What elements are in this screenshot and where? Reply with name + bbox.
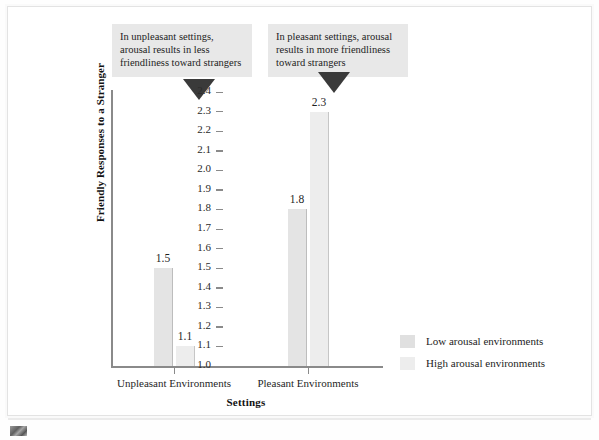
y-axis-title: Friendly Responses to a Stranger xyxy=(94,63,106,222)
bar-value-label: 1.5 xyxy=(146,252,181,264)
x-axis-title: Settings xyxy=(112,396,380,408)
callout-pointer-triangle-icon xyxy=(318,72,350,93)
y-axis-tick-label: 1.2 xyxy=(197,319,211,331)
y-axis-tick-mark xyxy=(216,170,223,171)
bar-low-pleasant[interactable] xyxy=(288,209,307,366)
y-axis-tick-mark xyxy=(216,287,223,288)
annotation-callout-unpleasant: In unpleasant settings, arousal results … xyxy=(112,24,252,77)
y-axis-tick-mark xyxy=(216,366,223,367)
y-axis-tick-label: 1.4 xyxy=(197,280,211,292)
y-axis-tick-label: 1.8 xyxy=(197,201,211,213)
y-axis-tick-label: 2.4 xyxy=(197,84,211,96)
legend-item-low[interactable]: Low arousal environments xyxy=(400,330,580,352)
legend-swatch-icon xyxy=(400,335,415,348)
y-axis-tick-mark xyxy=(216,92,223,93)
y-axis-tick-mark xyxy=(216,189,223,190)
bar-high-unpleasant[interactable] xyxy=(176,346,195,366)
legend-swatch-icon xyxy=(400,357,415,370)
y-axis-tick-mark xyxy=(216,268,223,269)
x-axis-tick-mark xyxy=(174,367,175,374)
y-axis-tick-mark xyxy=(216,229,223,230)
y-axis-tick-label: 1.5 xyxy=(197,260,211,272)
y-axis-tick-mark xyxy=(216,248,223,249)
bar-chart: In unpleasant settings, arousal results … xyxy=(0,0,599,440)
plot-area: Friendly Responses to a Stranger 2.42.32… xyxy=(112,92,380,366)
y-axis-tick-label: 1.6 xyxy=(197,241,211,253)
y-axis-tick-mark xyxy=(216,326,223,327)
bar-value-label: 1.1 xyxy=(168,330,203,342)
legend-item-label: Low arousal environments xyxy=(426,335,543,347)
legend-item-label: High arousal environments xyxy=(426,357,545,369)
bar-low-unpleasant[interactable] xyxy=(154,268,173,366)
y-axis-tick-label: 2.3 xyxy=(197,104,211,116)
y-axis-tick-label: 1.9 xyxy=(197,182,211,194)
y-axis-tick-label: 2.1 xyxy=(197,143,211,155)
y-axis-tick-mark xyxy=(216,307,223,308)
y-axis-tick-label: 1.3 xyxy=(197,299,211,311)
y-axis-tick-mark xyxy=(216,209,223,210)
chart-legend: Low arousal environmentsHigh arousal env… xyxy=(400,330,580,374)
page-frame: In unpleasant settings, arousal results … xyxy=(0,0,599,440)
y-axis-tick-mark xyxy=(216,111,223,112)
y-axis-tick-label: 2.0 xyxy=(197,162,211,174)
y-axis-tick-mark xyxy=(216,150,223,151)
legend-item-high[interactable]: High arousal environments xyxy=(400,352,580,374)
bar-value-label: 2.3 xyxy=(302,96,337,108)
y-axis-tick-label: 1.7 xyxy=(197,221,211,233)
y-axis-tick-label: 1.0 xyxy=(197,358,211,370)
y-axis-tick-mark xyxy=(216,346,223,347)
x-axis-tick-mark xyxy=(308,367,309,374)
bar-high-pleasant[interactable] xyxy=(310,112,329,366)
x-axis-tick-label: Pleasant Environments xyxy=(228,377,388,389)
y-axis-tick-mark xyxy=(216,131,223,132)
annotation-callout-pleasant: In pleasant settings, arousal results in… xyxy=(268,24,408,77)
x-axis-line xyxy=(111,366,383,368)
y-axis-tick-label: 2.2 xyxy=(197,123,211,135)
